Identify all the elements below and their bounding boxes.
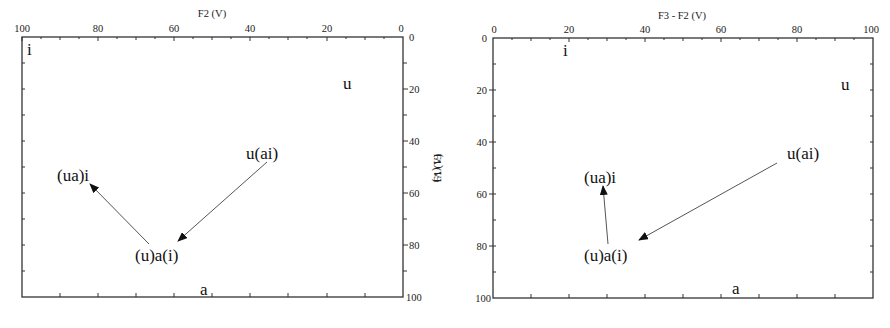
left-y-tick-label: 80: [409, 240, 420, 251]
right-x-tick-label: 100: [863, 24, 879, 35]
right-x-axis-title: F3 - F2 (V): [658, 10, 707, 22]
right-y-tick-label: 20: [477, 85, 488, 96]
right-x-ticks: [512, 38, 854, 298]
left-x-tick-label: 40: [245, 23, 256, 34]
right-x-tick-label: 80: [792, 24, 803, 35]
right-y-tick-label: 0: [482, 33, 487, 44]
left-x-tick-label: 100: [14, 23, 30, 34]
right-arrow-uai-to-uai3: [639, 163, 777, 240]
left-arrow-uai-to-uai3: [178, 162, 267, 241]
right-y-tick-label: 80: [477, 241, 488, 252]
left-arrow-uai3-to-uai2: [90, 184, 149, 244]
right-y-tick-label: 60: [477, 189, 488, 200]
right-arrow-uai3-to-uai2: [603, 186, 608, 244]
right-y-tick-label: 100: [475, 293, 491, 304]
left-label-a: a: [200, 280, 208, 299]
right-y-tick-label: 40: [477, 137, 488, 148]
right-label-u: u: [841, 75, 850, 94]
left-label-uai: u(ai): [246, 144, 278, 163]
left-label-uai3: (u)a(i): [135, 246, 178, 265]
left-y-axis-title-mirrored: F1 (V): [431, 154, 443, 183]
right-x-tick-label: 20: [564, 24, 575, 35]
right-plot-frame: [493, 38, 873, 298]
figure: 100 80 60 40 20 0 F2 (V) 0 20 40 60 80 1…: [0, 0, 890, 328]
right-label-uai2: (ua)i: [584, 168, 616, 187]
left-x-tick-label: 80: [93, 23, 104, 34]
left-x-tick-label: 0: [398, 23, 403, 34]
left-x-tick-label: 60: [169, 23, 180, 34]
right-label-i: i: [563, 41, 568, 60]
right-label-uai: u(ai): [787, 144, 819, 163]
left-y-tick-label: 0: [409, 32, 414, 43]
left-label-u: u: [343, 74, 352, 93]
left-label-uai2: (ua)i: [57, 166, 89, 185]
left-x-tick-label: 20: [322, 23, 333, 34]
left-y-tick-label: 20: [409, 84, 420, 95]
left-y-tick-label: 60: [409, 188, 420, 199]
right-y-ticks: [489, 64, 873, 272]
right-chart: 0 20 40 60 80 100 F3 - F2 (V) 0 20 40 60…: [475, 10, 879, 304]
right-label-uai3: (u)a(i): [584, 246, 627, 265]
right-x-tick-label: 40: [640, 24, 651, 35]
right-x-tick-label: 0: [491, 24, 496, 35]
left-y-tick-label: 100: [406, 292, 422, 303]
right-x-tick-label: 60: [716, 24, 727, 35]
left-label-i: i: [27, 40, 32, 59]
left-x-axis-title: F2 (V): [198, 8, 227, 20]
left-y-tick-label: 40: [409, 136, 420, 147]
left-chart: 100 80 60 40 20 0 F2 (V) 0 20 40 60 80 1…: [14, 8, 422, 303]
right-label-a: a: [732, 279, 740, 298]
